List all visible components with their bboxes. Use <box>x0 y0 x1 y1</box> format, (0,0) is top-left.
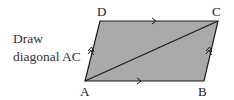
vertex-label-A: A <box>80 84 90 99</box>
instruction-line-1: Draw <box>13 31 43 46</box>
vertex-label-B: B <box>198 84 207 99</box>
vertex-label-D: D <box>97 4 106 19</box>
vertex-label-C: C <box>212 4 221 19</box>
instruction-line-2: diagonal AC <box>13 49 81 64</box>
parallelogram-diagram: D C A B Draw diagonal AC <box>0 0 234 100</box>
